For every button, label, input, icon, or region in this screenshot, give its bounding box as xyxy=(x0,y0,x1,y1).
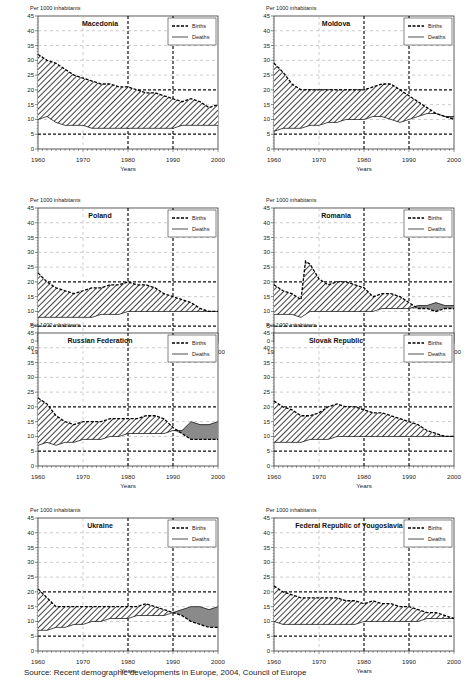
chart-title: Russian Federation xyxy=(68,337,133,344)
chart-panel-slovak-republic: Per 1000 inhabitants05101520253035404519… xyxy=(236,322,468,480)
chart-legend: BirthsDeaths xyxy=(168,18,216,45)
svg-text:2000: 2000 xyxy=(211,156,225,163)
svg-text:5: 5 xyxy=(31,131,35,137)
svg-text:40: 40 xyxy=(27,530,34,536)
svg-text:40: 40 xyxy=(263,220,270,226)
svg-text:0: 0 xyxy=(31,146,35,152)
svg-text:25: 25 xyxy=(263,389,270,395)
svg-text:Deaths: Deaths xyxy=(192,34,210,40)
chart-panel-russian-federation: Per 1000 inhabitants05101520253035404519… xyxy=(0,322,232,480)
chart-svg: 05101520253035404519601970198019902000Ye… xyxy=(236,5,468,180)
svg-text:1960: 1960 xyxy=(31,156,45,163)
chart-panel-federal-republic-of-yougoslavia: Per 1000 inhabitants05101520253035404519… xyxy=(236,507,468,665)
svg-text:35: 35 xyxy=(263,545,270,551)
svg-text:1960: 1960 xyxy=(31,473,45,480)
svg-text:1980: 1980 xyxy=(121,156,135,163)
svg-text:30: 30 xyxy=(263,374,270,380)
svg-text:10: 10 xyxy=(263,618,270,624)
x-axis-label: Years xyxy=(356,482,372,489)
chart-legend: BirthsDeaths xyxy=(404,335,452,362)
svg-text:25: 25 xyxy=(27,72,34,78)
chart-panel-macedonia: Per 1000 inhabitants05101520253035404519… xyxy=(0,5,232,163)
x-axis-label: Years xyxy=(120,482,136,489)
svg-text:1980: 1980 xyxy=(121,658,135,665)
svg-text:20: 20 xyxy=(27,87,34,93)
svg-text:25: 25 xyxy=(27,574,34,580)
svg-text:45: 45 xyxy=(263,515,270,521)
svg-text:10: 10 xyxy=(263,433,270,439)
chart-title: Ukraine xyxy=(87,522,113,529)
svg-text:15: 15 xyxy=(27,419,34,425)
svg-text:20: 20 xyxy=(263,87,270,93)
svg-text:30: 30 xyxy=(27,249,34,255)
chart-legend: BirthsDeaths xyxy=(168,335,216,362)
chart-legend: BirthsDeaths xyxy=(404,520,452,547)
svg-text:2000: 2000 xyxy=(447,658,461,665)
svg-text:Deaths: Deaths xyxy=(428,351,446,357)
x-axis-label: Years xyxy=(120,165,136,172)
svg-text:10: 10 xyxy=(27,308,34,314)
chart-title: Slovak Republic xyxy=(309,337,363,345)
svg-text:25: 25 xyxy=(263,72,270,78)
svg-text:20: 20 xyxy=(263,279,270,285)
chart-svg: 05101520253035404519601970198019902000Ye… xyxy=(236,507,468,680)
chart-panel-moldova: Per 1000 inhabitants05101520253035404519… xyxy=(236,5,468,163)
svg-text:Deaths: Deaths xyxy=(192,536,210,542)
svg-text:35: 35 xyxy=(263,235,270,241)
svg-text:20: 20 xyxy=(27,279,34,285)
svg-text:40: 40 xyxy=(27,28,34,34)
svg-text:5: 5 xyxy=(31,633,35,639)
svg-text:0: 0 xyxy=(267,648,271,654)
svg-text:Deaths: Deaths xyxy=(428,536,446,542)
svg-text:35: 35 xyxy=(27,545,34,551)
svg-text:1980: 1980 xyxy=(357,473,371,480)
chart-title: Federal Republic of Yougoslavia xyxy=(295,522,403,530)
svg-text:35: 35 xyxy=(27,43,34,49)
svg-text:Births: Births xyxy=(428,215,442,221)
svg-text:40: 40 xyxy=(27,220,34,226)
svg-text:15: 15 xyxy=(263,419,270,425)
svg-text:30: 30 xyxy=(263,57,270,63)
svg-text:30: 30 xyxy=(27,559,34,565)
svg-text:0: 0 xyxy=(267,146,271,152)
svg-text:1980: 1980 xyxy=(357,156,371,163)
svg-text:45: 45 xyxy=(263,205,270,211)
svg-text:35: 35 xyxy=(263,43,270,49)
svg-text:1960: 1960 xyxy=(267,473,281,480)
svg-text:35: 35 xyxy=(27,360,34,366)
chart-svg: 05101520253035404519601970198019902000Ye… xyxy=(0,322,232,497)
chart-legend: BirthsDeaths xyxy=(404,18,452,45)
svg-text:Deaths: Deaths xyxy=(428,34,446,40)
svg-text:2000: 2000 xyxy=(211,473,225,480)
svg-text:1990: 1990 xyxy=(166,658,180,665)
svg-text:1960: 1960 xyxy=(31,658,45,665)
svg-text:1970: 1970 xyxy=(76,473,90,480)
svg-text:Deaths: Deaths xyxy=(192,351,210,357)
svg-text:Births: Births xyxy=(428,340,442,346)
svg-text:45: 45 xyxy=(263,330,270,336)
svg-text:15: 15 xyxy=(27,294,34,300)
svg-text:25: 25 xyxy=(27,264,34,270)
svg-text:1980: 1980 xyxy=(121,473,135,480)
svg-text:15: 15 xyxy=(263,102,270,108)
svg-text:1970: 1970 xyxy=(312,156,326,163)
svg-text:1990: 1990 xyxy=(402,658,416,665)
svg-text:20: 20 xyxy=(263,404,270,410)
svg-text:45: 45 xyxy=(27,205,34,211)
chart-legend: BirthsDeaths xyxy=(404,210,452,237)
chart-svg: 05101520253035404519601970198019902000Ye… xyxy=(236,322,468,497)
svg-text:5: 5 xyxy=(267,448,271,454)
svg-text:15: 15 xyxy=(27,604,34,610)
svg-text:Births: Births xyxy=(192,215,206,221)
svg-text:1990: 1990 xyxy=(166,156,180,163)
svg-text:5: 5 xyxy=(31,448,35,454)
svg-text:1970: 1970 xyxy=(76,156,90,163)
svg-text:40: 40 xyxy=(263,530,270,536)
svg-text:Births: Births xyxy=(428,23,442,29)
svg-text:Births: Births xyxy=(192,340,206,346)
chart-title: Macedonia xyxy=(82,20,118,27)
chart-svg: 05101520253035404519601970198019902000Ye… xyxy=(0,5,232,180)
svg-text:2000: 2000 xyxy=(447,156,461,163)
x-axis-label: Years xyxy=(356,667,372,674)
svg-text:Births: Births xyxy=(192,23,206,29)
